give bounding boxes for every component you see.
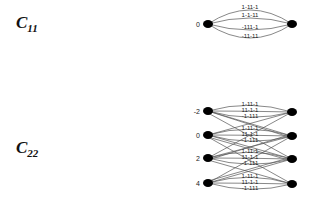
c22-edge-label: -1-111 [242,137,259,143]
c22-node-label: 4 [196,180,200,187]
c11-node-label: 0 [196,21,200,28]
c22-node-left [203,179,213,187]
c22-node-right [287,155,297,163]
c22-node-right [287,132,297,140]
c22-node-right [287,180,297,188]
c22-edge-label: -1-111 [242,185,259,191]
c22-node-label: 0 [196,132,200,139]
c11-edge-label: -111-1 [242,24,259,30]
c22-node-label: -2 [194,108,200,115]
c22-graph: 1-11-1 11-1-1 -1-111 1-11-1 11-1-1 -1-11… [194,101,297,191]
c22-node-left [203,154,213,162]
graph-canvas: 1-11-1 1-1-11 -111-1 -11-11 0 [0,0,316,201]
c22-edge-label: -1-111 [242,160,259,166]
c22-edge-label: -1-111 [242,113,259,119]
c22-node-left [203,131,213,139]
c11-edge-label: 1-1-11 [242,12,260,18]
c11-node-right [287,20,297,28]
c11-edge-label: -11-11 [242,33,259,39]
c11-edge-label: 1-11-1 [242,4,260,10]
c11-graph: 1-11-1 1-1-11 -111-1 -11-11 0 [196,4,297,39]
c22-node-label: 2 [196,155,200,162]
c22-node-left [203,107,213,115]
c11-node-left [203,20,213,28]
c22-node-right [287,108,297,116]
